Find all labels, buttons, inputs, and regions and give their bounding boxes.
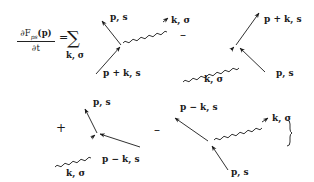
d2-label-electron-in: p, s: [276, 68, 294, 78]
d4-label-photon: k, σ: [272, 113, 291, 123]
diagram-1: [96, 18, 168, 74]
d2-label-electron-out: p + k, s: [264, 14, 302, 24]
d2-label-photon: k, σ: [204, 74, 223, 84]
diagram-2: [183, 13, 265, 82]
photon-wavy-line: [123, 31, 167, 43]
feynman-equation: ∂Fps(p) ∂t = ∑ k, σ – + –: [0, 0, 314, 182]
d4-label-electron-out: p − k, s: [180, 102, 218, 112]
photon-wavy-line: [55, 157, 91, 167]
photon-wavy-line: [214, 128, 262, 140]
electron-in-line: [100, 134, 140, 147]
electron-in-line: [212, 146, 228, 170]
diagram-lines: [0, 0, 314, 182]
d1-label-electron-out: p, s: [110, 12, 128, 22]
diagram-4: [175, 118, 268, 170]
closing-brace: [287, 120, 292, 146]
electron-out-line: [236, 13, 259, 45]
d4-label-electron-in: p, s: [231, 167, 249, 177]
electron-out-line: [102, 21, 121, 45]
d1-label-electron-in: p + k, s: [103, 68, 141, 78]
electron-out-line: [85, 109, 97, 133]
d3-label-photon: k, σ: [66, 168, 85, 178]
d3-label-electron-out: p, s: [93, 97, 111, 107]
electron-in-line: [240, 48, 265, 72]
d1-label-photon: k, σ: [171, 15, 190, 25]
d3-label-electron-in: p − k, s: [102, 154, 140, 164]
electron-out-line: [175, 118, 208, 141]
